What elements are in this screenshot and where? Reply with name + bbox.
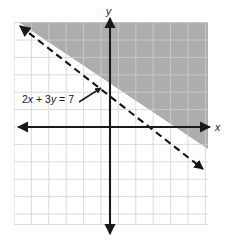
equation-equals: = — [56, 93, 68, 105]
inequality-graph-figure: 2x + 3y = 7 x y — [0, 0, 228, 244]
equation-plus: + — [33, 93, 45, 105]
coordinate-plane-svg: 2x + 3y = 7 x y — [0, 0, 228, 244]
y-axis-label: y — [105, 5, 112, 17]
equation-constant: 7 — [68, 93, 74, 105]
x-axis-label: x — [214, 121, 221, 133]
line-equation-label: 2x + 3y = 7 — [22, 93, 74, 105]
